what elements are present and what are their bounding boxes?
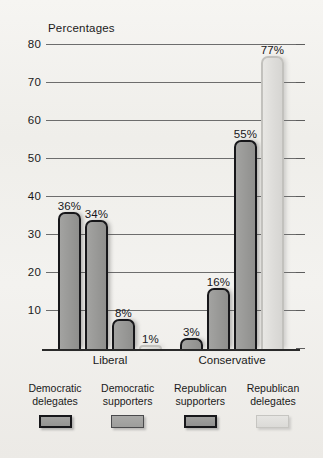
legend-swatch-democratic-supporters bbox=[111, 415, 144, 428]
legend-swatch-republican-supporters bbox=[184, 415, 217, 428]
legend-swatch-republican-delegates bbox=[256, 415, 289, 428]
legend-item-democratic-delegates[interactable]: Democratic delegates bbox=[20, 382, 90, 428]
right-tick-60 bbox=[296, 120, 305, 121]
gridline-10: 10 bbox=[46, 310, 296, 311]
chart-title: Percentages bbox=[48, 22, 115, 34]
right-tick-50 bbox=[296, 158, 305, 159]
bar-liberal-democratic-supporters[interactable]: 34% bbox=[85, 220, 108, 349]
bar-value-label: 3% bbox=[183, 326, 200, 338]
legend-label-line1: Democratic bbox=[93, 382, 163, 395]
x-axis-baseline bbox=[42, 349, 300, 351]
legend-label-line1: Republican bbox=[238, 382, 308, 395]
gridline-70: 70 bbox=[46, 82, 296, 83]
gridline-20: 20 bbox=[46, 272, 296, 273]
bar-liberal-democratic-delegates[interactable]: 36% bbox=[58, 212, 81, 349]
bar-value-label: 77% bbox=[261, 44, 284, 56]
gridline-50: 50 bbox=[46, 158, 296, 159]
bar-conservative-democratic-supporters[interactable]: 16% bbox=[207, 288, 230, 349]
ytick-label-60: 60 bbox=[28, 114, 41, 126]
legend-item-republican-delegates[interactable]: Republican delegates bbox=[238, 382, 308, 428]
ytick-label-80: 80 bbox=[28, 38, 41, 50]
legend-label-line1: Republican bbox=[165, 382, 235, 395]
legend-label-line2: supporters bbox=[93, 395, 163, 408]
bar-liberal-republican-supporters[interactable]: 8% bbox=[112, 319, 135, 349]
right-tick-30 bbox=[296, 234, 305, 235]
group-label-liberal: Liberal bbox=[93, 354, 128, 366]
legend-item-democratic-supporters[interactable]: Democratic supporters bbox=[93, 382, 163, 428]
bar-value-label: 36% bbox=[58, 200, 81, 212]
ytick-label-10: 10 bbox=[28, 304, 41, 316]
ytick-label-30: 30 bbox=[28, 228, 41, 240]
legend: Democratic delegates Democratic supporte… bbox=[20, 382, 308, 428]
legend-label-line2: delegates bbox=[238, 395, 308, 408]
ytick-label-50: 50 bbox=[28, 152, 41, 164]
legend-label-line1: Democratic bbox=[20, 382, 90, 395]
bar-conservative-republican-supporters[interactable]: 55% bbox=[234, 140, 257, 349]
chart-screenshot: Percentages 80 70 60 50 40 30 20 10 bbox=[0, 0, 323, 458]
legend-label-line2: delegates bbox=[20, 395, 90, 408]
bar-value-label: 8% bbox=[115, 307, 132, 319]
right-tick-20 bbox=[296, 272, 305, 273]
bar-conservative-republican-delegates[interactable]: 77% bbox=[261, 56, 284, 349]
gridline-80: 80 bbox=[46, 44, 296, 45]
ytick-label-20: 20 bbox=[28, 266, 41, 278]
bar-conservative-democratic-delegates[interactable]: 3% bbox=[180, 338, 203, 349]
ytick-label-70: 70 bbox=[28, 76, 41, 88]
ytick-label-40: 40 bbox=[28, 190, 41, 202]
gridline-40: 40 bbox=[46, 196, 296, 197]
plot-area: 80 70 60 50 40 30 20 10 bbox=[46, 44, 296, 349]
right-tick-70 bbox=[296, 82, 305, 83]
bar-value-label: 1% bbox=[142, 333, 159, 345]
bar-value-label: 55% bbox=[234, 128, 257, 140]
bar-value-label: 16% bbox=[207, 276, 230, 288]
right-tick-40 bbox=[296, 196, 305, 197]
bar-value-label: 34% bbox=[85, 208, 108, 220]
gridline-30: 30 bbox=[46, 234, 296, 235]
legend-label-line2: supporters bbox=[165, 395, 235, 408]
legend-swatch-democratic-delegates bbox=[39, 415, 72, 428]
legend-item-republican-supporters[interactable]: Republican supporters bbox=[165, 382, 235, 428]
gridline-60: 60 bbox=[46, 120, 296, 121]
group-label-conservative: Conservative bbox=[198, 354, 265, 366]
right-tick-80 bbox=[296, 44, 305, 45]
right-tick-10 bbox=[296, 310, 305, 311]
